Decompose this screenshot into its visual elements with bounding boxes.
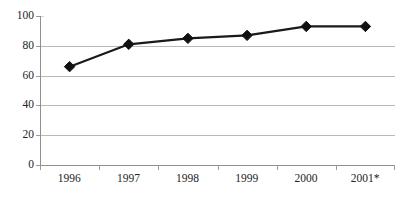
data-series-layer [0,0,412,204]
series-markers [64,21,370,72]
data-point-1998 [183,33,193,43]
series-line [70,26,366,66]
data-point-2001 [360,21,370,31]
data-point-1999 [242,30,252,40]
data-point-2000 [301,21,311,31]
data-point-1997 [124,39,134,49]
line-chart: 100 80 60 40 20 0 1996 1997 1998 1999 20… [0,0,412,204]
data-point-1996 [64,61,74,71]
